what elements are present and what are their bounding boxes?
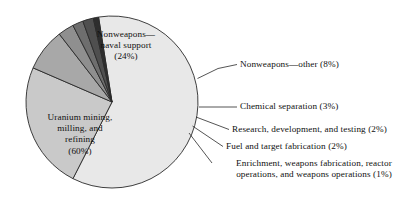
leader-line-nonweapons-other	[198, 69, 219, 79]
leader-line-enrichment	[189, 133, 212, 163]
leader-line-research-development	[196, 117, 229, 130]
leader-line-nonweapons-other-tail	[218, 65, 237, 69]
slice-label-uranium-mining: Uranium mining, milling, and refining (6…	[28, 112, 132, 157]
callout-label-enrichment-weapons: Enrichment, weapons fabrication, reactor…	[214, 158, 414, 181]
pie-chart-figure: Nonweapons— naval support (24%) Uranium …	[0, 0, 419, 205]
callout-label-fuel-target-fabrication: Fuel and target fabrication (2%)	[226, 141, 347, 152]
callout-label-chemical-separation: Chemical separation (3%)	[240, 101, 338, 112]
slice-label-nonweapons-naval-support: Nonweapons— naval support (24%)	[74, 29, 178, 63]
callout-label-nonweapons-other: Nonweapons—other (8%)	[240, 59, 339, 70]
callout-label-research-development-testing: Research, development, and testing (2%)	[232, 124, 387, 135]
